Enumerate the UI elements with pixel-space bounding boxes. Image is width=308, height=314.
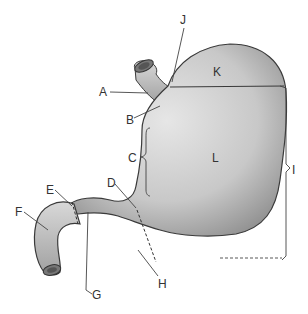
- label-e: E: [46, 184, 54, 196]
- label-g: G: [92, 289, 101, 301]
- stomach-illustration: [0, 0, 308, 314]
- label-l: L: [212, 152, 219, 164]
- label-f: F: [15, 206, 22, 218]
- stomach-body: [69, 44, 286, 236]
- label-a: A: [99, 86, 107, 98]
- label-j: J: [180, 14, 186, 26]
- label-i: I: [292, 164, 295, 176]
- stomach-diagram: A B C D E F G H I J K L: [0, 0, 308, 314]
- label-b: B: [126, 114, 134, 126]
- label-d: D: [107, 177, 116, 189]
- label-h: H: [158, 278, 167, 290]
- duodenum: [34, 202, 80, 275]
- label-k: K: [213, 66, 221, 78]
- label-c: C: [128, 152, 137, 164]
